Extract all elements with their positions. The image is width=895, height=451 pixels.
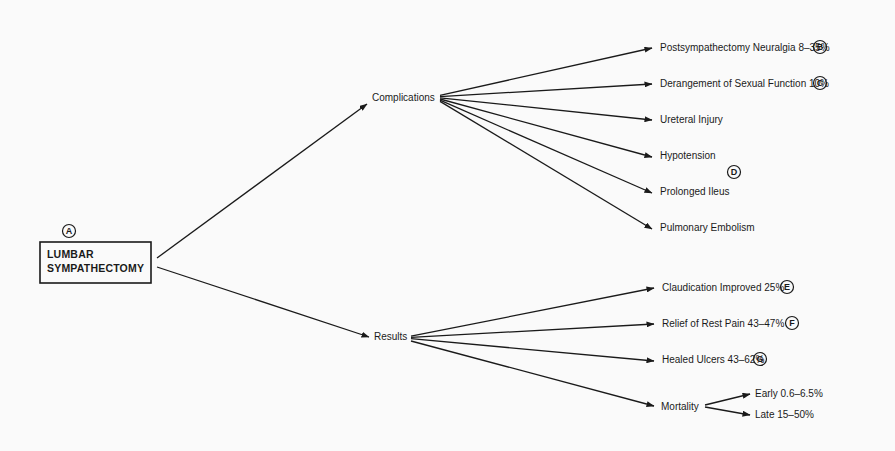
badge-d-label: D [731,167,738,177]
arrow-to-mortality [411,341,654,406]
arrow-to-prolonged-ileus [440,100,652,193]
node-label: Relief of Rest Pain 43–47% [662,318,784,329]
arrow-to-early-0-6-6-5 [705,394,750,405]
badge-d-icon: D [728,166,741,179]
lumbar-sympathectomy-diagram: LUMBAR SYMPATHECTOMY A Complications Pos… [0,0,895,451]
arrow-to-derangement-of-sexual-function-10 [440,84,652,97]
arrow-to-ureteral-injury [440,98,652,120]
badge-c-label: C [817,78,824,88]
node-label: Late 15–50% [755,409,814,420]
root-label-line-2: SYMPATHECTOMY [47,262,144,274]
root-node: LUMBAR SYMPATHECTOMY A [40,225,151,284]
arrow-to-postsympathectomy-neuralgia-8-35 [440,48,652,95]
root-label-line-1: LUMBAR [47,248,94,260]
node-label: Prolonged Ileus [660,186,730,197]
node-hypotension: Hypotension [440,99,716,161]
node-ureteral-injury: Ureteral Injury [440,98,723,125]
badge-a-icon: A [63,225,76,238]
node-healed-ulcers-43-62: Healed Ulcers 43–62%G [411,339,767,366]
branch-results: Results Claudication Improved 25%ERelief… [157,267,823,420]
node-early-0-6-6-5: Early 0.6–6.5% [705,388,823,405]
badge-f-icon: F [786,317,799,330]
results-label: Results [374,331,407,342]
arrow-to-results [157,267,369,337]
diagram-canvas: LUMBAR SYMPATHECTOMY A Complications Pos… [0,0,895,451]
badge-f-label: F [789,318,795,328]
badge-g-label: G [756,354,763,364]
arrow-to-claudication-improved-25 [411,288,654,336]
arrow-to-hypotension [440,99,652,157]
badge-a-label: A [66,226,73,236]
node-label: Ureteral Injury [660,114,723,125]
node-relief-of-rest-pain-43-47: Relief of Rest Pain 43–47%F [411,317,799,338]
badge-e-label: E [784,282,790,292]
badge-b-label: B [817,42,824,52]
node-label: Hypotension [660,150,716,161]
node-late-15-50: Late 15–50% [705,407,814,420]
node-label: Healed Ulcers 43–62% [662,354,764,365]
node-label: Postsympathectomy Neuralgia 8–35% [660,42,830,53]
node-label: Derangement of Sexual Function 10% [660,78,829,89]
arrow-to-late-15-50 [705,407,750,415]
branch-complications: Complications Postsympathectomy Neuralgi… [157,41,830,259]
node-label: Claudication Improved 25% [662,282,784,293]
node-label: Early 0.6–6.5% [755,388,823,399]
arrow-to-pulmonary-embolism [440,101,652,229]
node-label: Pulmonary Embolism [660,222,754,233]
arrow-to-complications [157,104,367,258]
arrow-to-healed-ulcers-43-62 [411,339,654,361]
mortality-label: Mortality [661,401,699,412]
complications-label: Complications [372,92,435,103]
node-derangement-of-sexual-function-10: Derangement of Sexual Function 10%C [440,77,829,97]
arrow-to-relief-of-rest-pain-43-47 [411,324,654,337]
